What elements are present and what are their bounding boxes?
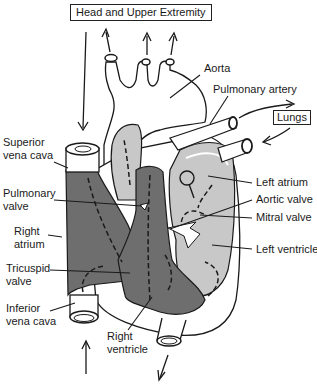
label-inferior-vena-cava-line1: Inferior xyxy=(6,302,40,315)
label-inferior-vena-cava-line2: vena cava xyxy=(6,315,56,328)
label-aorta: Aorta xyxy=(204,62,230,75)
head-upper-extremity-box: Head and Upper Extremity xyxy=(70,4,212,21)
label-aortic-valve: Aortic valve xyxy=(256,193,313,206)
lungs-box: Lungs xyxy=(273,110,311,125)
label-right-atrium-line1: Right xyxy=(14,225,40,238)
label-right-ventricle-line1: Right xyxy=(107,330,133,343)
label-tricuspid-valve-line2: valve xyxy=(6,275,32,288)
label-mitral-valve: Mitral valve xyxy=(256,211,312,224)
label-pulmonary-valve-line1: Pulmonary xyxy=(3,187,56,200)
label-tricuspid-valve-line1: Tricuspid xyxy=(6,262,50,275)
label-superior-vena-cava-line1: Superior xyxy=(3,136,45,149)
label-left-ventricle: Left ventricle xyxy=(256,243,317,256)
label-left-atrium: Left atrium xyxy=(256,176,308,189)
label-pulmonary-valve-line2: valve xyxy=(3,200,29,213)
label-pulmonary-artery: Pulmonary artery xyxy=(213,83,297,96)
label-right-atrium-line2: atrium xyxy=(14,238,45,251)
label-right-ventricle-line2: ventricle xyxy=(107,343,148,356)
label-superior-vena-cava-line2: vena cava xyxy=(3,149,53,162)
